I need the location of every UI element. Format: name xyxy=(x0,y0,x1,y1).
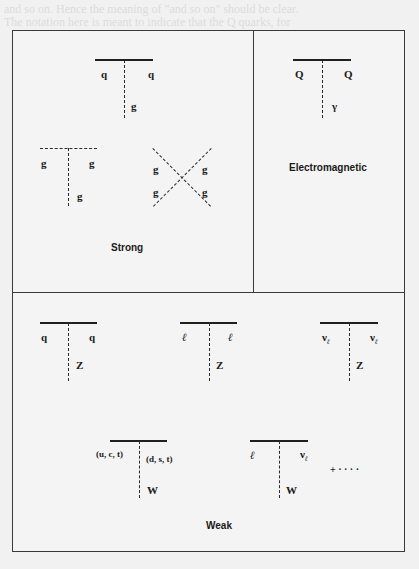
label-w-boson: W xyxy=(147,484,158,496)
label-quark-in: q xyxy=(41,331,47,343)
label-gluon: g xyxy=(77,190,83,202)
panel-divider-horizontal xyxy=(12,292,405,293)
label-gluon: g xyxy=(202,186,208,198)
label-charged-fermion-in: Q xyxy=(295,68,304,80)
label-photon: γ xyxy=(332,100,337,112)
label-charged-fermion-out: Q xyxy=(344,68,353,80)
background-text-line: The notation here is meant to indicate t… xyxy=(0,15,419,30)
lepton-subscript: ℓ xyxy=(327,338,330,346)
lepton-subscript: ℓ xyxy=(375,338,378,346)
z-boson-line xyxy=(68,323,69,381)
electromagnetic-caption: Electromagnetic xyxy=(289,162,367,173)
label-w-boson: W xyxy=(286,484,297,496)
z-boson-line xyxy=(209,323,210,381)
more-vertices-ellipsis: + · · · · xyxy=(330,464,359,476)
gluon-line xyxy=(124,60,125,118)
label-neutrino-out: νℓ xyxy=(370,331,378,348)
panel-divider-vertical xyxy=(253,30,254,292)
strong-caption: Strong xyxy=(111,242,143,253)
label-gluon: g xyxy=(202,163,208,175)
label-z-boson: Z xyxy=(216,359,223,371)
label-down-type-quarks: (d, s, t) xyxy=(146,453,173,465)
label-quark-in: q xyxy=(101,68,107,80)
label-neutrino: νℓ xyxy=(300,448,308,465)
label-lepton-out: ℓ xyxy=(228,331,233,343)
gluon-line xyxy=(68,148,69,206)
z-boson-line xyxy=(349,323,350,381)
label-gluon: g xyxy=(153,163,159,175)
label-lepton: ℓ xyxy=(250,449,255,461)
label-gluon: g xyxy=(89,157,95,169)
label-gluon: g xyxy=(41,157,47,169)
label-quark-out: q xyxy=(89,331,95,343)
w-boson-line xyxy=(139,441,140,498)
w-boson-line xyxy=(279,441,280,498)
weak-caption: Weak xyxy=(206,520,232,531)
photon-line xyxy=(322,60,323,118)
label-z-boson: Z xyxy=(76,359,83,371)
label-z-boson: Z xyxy=(356,359,363,371)
label-lepton-in: ℓ xyxy=(182,331,187,343)
label-quark-out: q xyxy=(148,68,154,80)
label-neutrino-in: νℓ xyxy=(322,331,330,348)
label-gluon: g xyxy=(131,100,137,112)
label-gluon: g xyxy=(153,186,159,198)
label-up-type-quarks: (u, c, t) xyxy=(96,448,123,460)
lepton-subscript: ℓ xyxy=(305,455,308,463)
